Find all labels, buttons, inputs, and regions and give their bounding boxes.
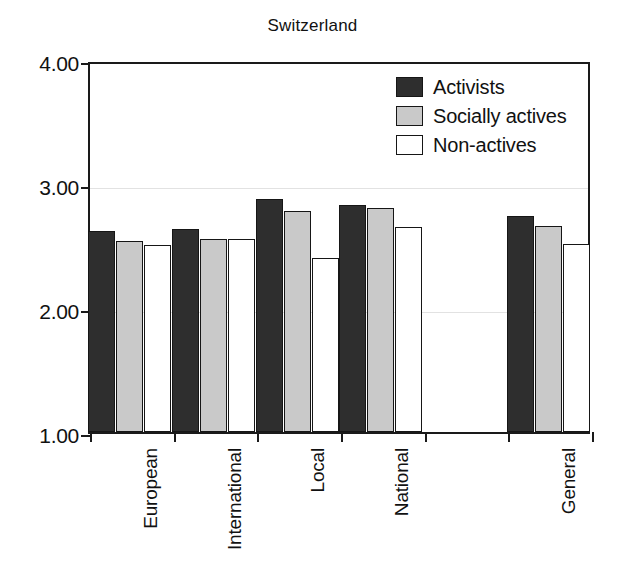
bar[interactable]	[507, 216, 534, 432]
bar[interactable]	[395, 227, 422, 432]
bar[interactable]	[312, 258, 339, 432]
bar[interactable]	[200, 239, 227, 432]
chart-figure: Switzerland 1.002.003.004.00 EuropeanInt…	[0, 0, 625, 576]
legend-label: Socially actives	[433, 106, 567, 126]
bar[interactable]	[144, 245, 171, 432]
y-tick-label: 4.00	[39, 52, 90, 76]
x-tick-mark	[592, 432, 594, 442]
chart-legend: ActivistsSocially activesNon-actives	[396, 70, 567, 161]
y-tick-label: 1.00	[39, 424, 90, 448]
bar[interactable]	[256, 199, 283, 432]
x-tick-label: Local	[307, 448, 329, 492]
x-tick-mark	[90, 432, 92, 442]
x-tick-mark	[257, 432, 259, 442]
bar-group	[88, 64, 171, 432]
legend-swatch	[396, 106, 423, 126]
legend-label: Non-actives	[433, 135, 536, 155]
x-tick-mark	[341, 432, 343, 442]
legend-item[interactable]: Socially actives	[396, 101, 567, 130]
x-tick-label: European	[140, 448, 162, 529]
legend-swatch	[396, 135, 423, 155]
bar[interactable]	[228, 239, 255, 432]
chart-title: Switzerland	[0, 16, 625, 36]
legend-label: Activists	[433, 77, 505, 97]
y-tick-label: 2.00	[39, 300, 90, 324]
x-tick-mark	[508, 432, 510, 442]
bar[interactable]	[563, 244, 590, 432]
bar-group	[172, 64, 255, 432]
x-tick-mark	[425, 432, 427, 442]
legend-item[interactable]: Non-actives	[396, 130, 567, 159]
bar[interactable]	[172, 229, 199, 432]
bar[interactable]	[339, 205, 366, 432]
x-tick-label: International	[224, 448, 246, 550]
y-tick-label: 3.00	[39, 176, 90, 200]
bar[interactable]	[284, 211, 311, 432]
bar[interactable]	[88, 231, 115, 432]
bar[interactable]	[535, 226, 562, 432]
bar[interactable]	[116, 241, 143, 432]
bar[interactable]	[367, 208, 394, 432]
bar-group	[256, 64, 339, 432]
legend-item[interactable]: Activists	[396, 72, 567, 101]
legend-swatch	[396, 77, 423, 97]
x-tick-mark	[174, 432, 176, 442]
x-tick-label: National	[391, 448, 413, 516]
x-tick-label: General	[558, 448, 580, 514]
